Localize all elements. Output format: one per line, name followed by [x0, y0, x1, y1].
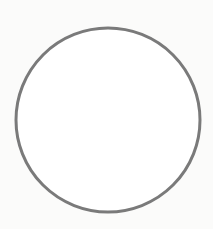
diagram-svg [0, 0, 213, 229]
circle-shape [16, 28, 200, 212]
diagram-canvas [0, 0, 213, 229]
